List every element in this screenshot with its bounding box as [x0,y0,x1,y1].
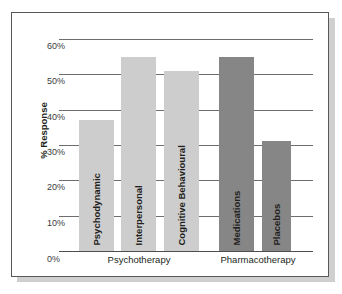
bar-label-wrap-placebos: Placebos [262,141,291,245]
bar-label-wrap-interpersonal: Interpersonal [121,125,156,245]
bar-cognitive-behavioural[interactable]: Cognitive Behavioural [164,71,199,251]
bar-label-wrap-cognitive-behavioural: Cognitive Behavioural [164,125,199,245]
bar-psychodynamic[interactable]: Psychodynamic [79,120,114,251]
bar-medications[interactable]: Medications [219,57,254,251]
axis-baseline [59,251,313,252]
bar-label-psychodynamic: Psychodynamic [92,173,102,245]
chart-figure-frame: % Response 60% 50% 40% 30% 20% 10% 0% Ps… [11,12,329,277]
bar-placebos[interactable]: Placebos [262,141,291,251]
ytick-label-50: 50% [47,76,87,86]
group-label-psychotherapy: Psychotherapy [79,254,199,265]
bar-label-cognitive-behavioural: Cognitive Behavioural [177,145,187,245]
bar-label-placebos: Placebos [272,203,282,245]
bar-label-interpersonal: Interpersonal [134,185,144,245]
bar-label-wrap-medications: Medications [219,125,254,245]
gridline-60 [59,39,313,40]
bar-label-medications: Medications [232,190,242,245]
bar-label-wrap-psychodynamic: Psychodynamic [79,125,114,245]
group-label-pharmacotherapy: Pharmacotherapy [208,254,308,265]
page-canvas: % Response 60% 50% 40% 30% 20% 10% 0% Ps… [0,0,342,294]
y-axis-title: % Response [38,91,49,171]
ytick-label-60: 60% [47,41,87,51]
bar-interpersonal[interactable]: Interpersonal [121,57,156,251]
